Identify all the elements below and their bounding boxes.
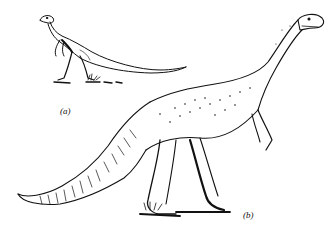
label-a: (a) — [60, 106, 71, 116]
label-b: (b) — [243, 210, 254, 220]
dinosaur-illustration: (a) (b) — [0, 0, 335, 231]
small-dinosaur-a — [40, 16, 186, 83]
illustration-drawing — [0, 0, 335, 231]
